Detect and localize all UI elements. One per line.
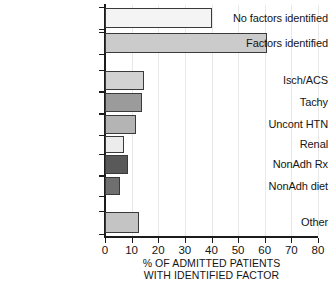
bar (105, 8, 212, 28)
x-tick-label: 30 (170, 244, 200, 257)
x-tick-mark (238, 238, 239, 243)
category-label: Tachy (228, 96, 328, 108)
x-tick-mark (265, 238, 266, 243)
x-tick-mark (158, 238, 159, 243)
y-tick-mark (99, 29, 105, 30)
x-axis-title-line-2: WITH IDENTIFIED FACTOR (105, 270, 318, 282)
x-tick-label: 20 (143, 244, 173, 257)
x-tick-label: 10 (117, 244, 147, 257)
x-tick-mark (212, 238, 213, 243)
x-tick-mark (132, 238, 133, 243)
category-label: NonAdh diet (228, 180, 328, 192)
x-tick-mark (105, 238, 106, 243)
bar (105, 93, 142, 112)
bar (105, 155, 128, 174)
category-label: Other (228, 216, 328, 228)
bar (105, 115, 136, 134)
x-axis-title-line-1: % OF ADMITTED PATIENTS (105, 258, 318, 270)
category-label: Uncont HTN (228, 118, 328, 130)
x-tick-mark (291, 238, 292, 243)
x-tick-mark (318, 238, 319, 243)
bar (105, 177, 120, 195)
bar (105, 71, 144, 90)
x-tick-label: 80 (303, 244, 333, 257)
x-tick-label: 50 (223, 244, 253, 257)
x-tick-mark (185, 238, 186, 243)
category-label: Isch/ACS (228, 74, 328, 86)
bar (105, 136, 124, 153)
x-tick-label: 40 (197, 244, 227, 257)
bar (105, 212, 139, 233)
x-tick-label: 70 (276, 244, 306, 257)
x-tick-label: 0 (90, 244, 120, 257)
y-tick-mark (99, 234, 105, 235)
category-label: Renal (228, 138, 328, 150)
category-label: NonAdh Rx (228, 158, 328, 170)
category-label: No factors identified (228, 12, 328, 24)
y-tick-mark (99, 54, 105, 55)
y-tick-mark (99, 196, 105, 197)
x-axis-title: % OF ADMITTED PATIENTS WITH IDENTIFIED F… (105, 258, 318, 281)
x-tick-label: 60 (250, 244, 280, 257)
category-label: Factors identified (228, 37, 328, 49)
